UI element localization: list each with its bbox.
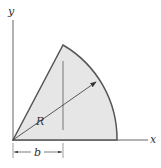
x-axis-label: x	[150, 133, 157, 146]
sector-area	[13, 45, 117, 140]
sector-diagram: y x R b	[0, 0, 161, 168]
y-axis-label: y	[7, 5, 15, 18]
radius-label: R	[35, 115, 44, 128]
dimension-label: b	[34, 146, 41, 159]
